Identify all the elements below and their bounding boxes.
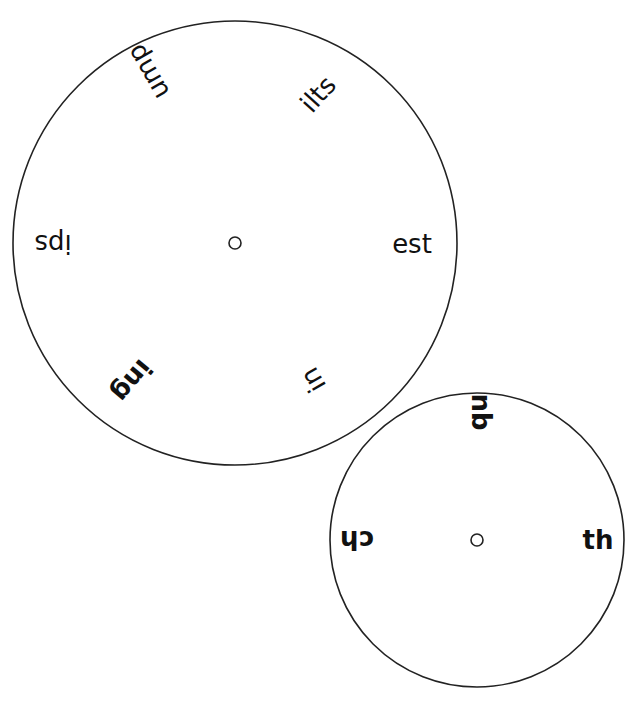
inner-wheel[interactable]: qu ch th [330,393,624,687]
word-wheel-canvas: ump ilts ips est ing in qu ch th [0,0,636,707]
inner-label-qu: qu [463,393,493,430]
outer-label-ips: ips [34,229,71,259]
inner-label-th: th [583,525,614,555]
outer-wheel[interactable]: ump ilts ips est ing in [13,21,457,465]
outer-wheel-circle[interactable] [13,21,457,465]
outer-label-est: est [392,229,432,259]
inner-label-ch: ch [340,525,374,555]
